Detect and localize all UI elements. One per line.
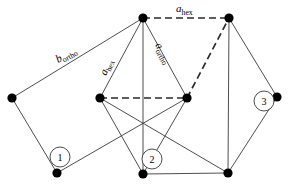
node-bottom-left-vertex	[52, 168, 61, 177]
label-a-hex-top-sub: hex	[182, 8, 193, 17]
node-top-right-vertex	[224, 13, 233, 22]
lattice-diagram: ahex bortho ahex aortho 1 2	[0, 0, 298, 185]
region-marker-1: 1	[50, 147, 70, 167]
node-mid-left-vertex	[95, 93, 104, 102]
figure-canvas: ahex bortho ahex aortho 1 2	[0, 0, 298, 185]
region-marker-2-label: 2	[150, 154, 155, 165]
node-left-vertex	[7, 93, 16, 102]
node-bottom-center-vertex	[138, 169, 147, 178]
node-top-center-vertex	[138, 13, 147, 22]
region-marker-1-label: 1	[58, 152, 63, 163]
region-marker-3: 3	[254, 91, 274, 111]
region-marker-3-label: 3	[262, 96, 267, 107]
node-bottom-right-vertex	[223, 168, 232, 177]
region-marker-2: 2	[142, 149, 162, 169]
node-mid-right-vertex	[182, 93, 191, 102]
